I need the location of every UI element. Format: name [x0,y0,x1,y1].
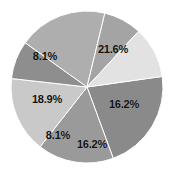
pie-chart-svg [0,0,176,180]
pie-chart-figure: 21.6%16.2%16.2%8.1%18.9%8.1% [0,0,176,180]
